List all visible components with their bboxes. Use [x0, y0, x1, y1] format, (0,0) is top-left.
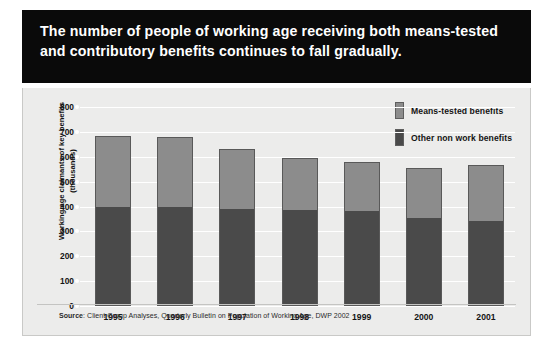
bar-group[interactable]: 1999 — [344, 162, 380, 306]
y-axis-tick-mark — [75, 229, 79, 233]
plot-area: 0100200300400500600700800 19951996199719… — [80, 107, 515, 306]
y-axis-tick-label: 100 — [60, 276, 74, 286]
y-axis-tick-mark — [75, 279, 79, 283]
bar-group[interactable]: 2001 — [468, 165, 504, 306]
page-title: The number of people of working age rece… — [40, 21, 513, 61]
x-axis-tick-label: 2001 — [468, 312, 504, 322]
infographic-root: The number of people of working age rece… — [0, 0, 553, 344]
bar-segment-other-non-work[interactable] — [406, 218, 442, 306]
bar-group[interactable]: 1998 — [282, 158, 318, 306]
y-axis-tick-mark — [75, 205, 79, 209]
bar-segment-means-tested[interactable] — [406, 168, 442, 218]
y-axis-tick-label: 400 — [60, 202, 74, 212]
bar-segment-other-non-work[interactable] — [157, 207, 193, 307]
bar-segment-other-non-work[interactable] — [282, 210, 318, 306]
bar-group[interactable]: 1995 — [95, 136, 131, 306]
bar-segment-other-non-work[interactable] — [468, 221, 504, 306]
title-banner: The number of people of working age rece… — [22, 10, 531, 83]
bar-group[interactable]: 2000 — [406, 168, 442, 306]
bar-segment-means-tested[interactable] — [157, 137, 193, 207]
y-axis-tick-label: 300 — [60, 226, 74, 236]
x-axis-tick-label: 2000 — [406, 312, 442, 322]
bar-segment-means-tested[interactable] — [282, 158, 318, 210]
y-axis-tick-mark — [75, 130, 79, 134]
y-axis-tick-label: 0 — [69, 301, 74, 311]
bar-segment-means-tested[interactable] — [468, 165, 504, 221]
y-axis-tick-label: 600 — [60, 152, 74, 162]
y-axis-tick-label: 200 — [60, 251, 74, 261]
source-prefix: Source — [59, 312, 83, 319]
y-axis-tick-mark — [75, 155, 79, 159]
y-axis-tick-label: 500 — [60, 177, 74, 187]
y-axis-tick-label: 700 — [60, 127, 74, 137]
bar-group[interactable]: 1997 — [219, 149, 255, 306]
gridline — [80, 306, 515, 307]
bar-segment-other-non-work[interactable] — [219, 209, 255, 306]
chart-panel: Means-tested benefits Other non work ben… — [22, 88, 531, 336]
source-divider — [37, 304, 516, 305]
bar-segment-means-tested[interactable] — [344, 162, 380, 211]
bar-segment-means-tested[interactable] — [219, 149, 255, 209]
y-axis-tick-mark — [75, 105, 79, 109]
y-axis-tick-mark — [75, 180, 79, 184]
y-axis-tick-label: 800 — [60, 102, 74, 112]
source-text: : Client Group Analyses, Quarterly Bulle… — [83, 312, 349, 319]
bar-series: 1995199619971998199920002001 — [80, 107, 515, 306]
bar-group[interactable]: 1996 — [157, 137, 193, 306]
y-axis-tick-mark — [75, 254, 79, 258]
source-note: Source: Client Group Analyses, Quarterly… — [59, 312, 350, 319]
bar-segment-other-non-work[interactable] — [95, 207, 131, 307]
bar-segment-means-tested[interactable] — [95, 136, 131, 207]
bar-segment-other-non-work[interactable] — [344, 211, 380, 306]
